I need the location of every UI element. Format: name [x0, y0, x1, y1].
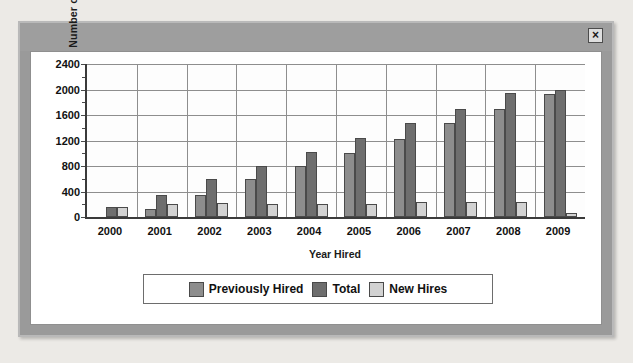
- legend-item[interactable]: Previously Hired: [189, 282, 304, 297]
- bar: [167, 204, 178, 217]
- y-axis-tick: 2400: [56, 58, 80, 70]
- bar: [466, 202, 477, 217]
- bar: [405, 123, 416, 217]
- y-axis-tick: 800: [62, 160, 80, 172]
- y-axis-tick: 1200: [56, 135, 80, 147]
- bar: [444, 123, 455, 217]
- y-axis-tickmark: [81, 217, 85, 218]
- legend-swatch-icon: [312, 282, 327, 297]
- y-axis-minor-tickmark: [82, 204, 85, 205]
- bar: [206, 179, 217, 217]
- bar: [416, 202, 427, 217]
- bar: [544, 94, 555, 217]
- bar-group: [87, 64, 137, 217]
- bar: [306, 152, 317, 217]
- plot-area-wrapper: 0400800120016002000240020002001200220032…: [85, 64, 585, 219]
- bar: [195, 195, 206, 217]
- x-axis-tick: 2001: [147, 225, 171, 237]
- bar: [106, 207, 117, 217]
- bar: [555, 90, 566, 218]
- close-icon[interactable]: ×: [588, 28, 603, 43]
- bar: [256, 166, 267, 217]
- bar-group: [386, 64, 436, 217]
- bar: [145, 209, 156, 217]
- bar: [217, 203, 228, 217]
- chart-window: × Number of employees 040080012001600200…: [18, 21, 614, 337]
- y-axis-minor-tickmark: [82, 153, 85, 154]
- bar-chart: Number of employees 04008001200160020002…: [31, 52, 601, 324]
- bar: [366, 204, 377, 217]
- bar: [156, 195, 167, 217]
- x-axis-tick: 2000: [98, 225, 122, 237]
- bar: [117, 207, 128, 217]
- y-axis-tick: 400: [62, 186, 80, 198]
- x-axis-tick: 2002: [197, 225, 221, 237]
- y-axis-tick: 0: [74, 211, 80, 223]
- bar: [516, 202, 527, 217]
- legend-item[interactable]: New Hires: [369, 282, 447, 297]
- x-axis-tick: 2005: [347, 225, 371, 237]
- x-axis-tick: 2008: [496, 225, 520, 237]
- bar-group: [485, 64, 535, 217]
- bar-group: [236, 64, 286, 217]
- plot-area: [85, 64, 585, 219]
- x-axis-label: Year Hired: [85, 248, 585, 260]
- bar: [344, 153, 355, 217]
- chart-legend: Previously HiredTotalNew Hires: [143, 274, 493, 304]
- legend-swatch-icon: [369, 282, 384, 297]
- bar: [267, 204, 278, 217]
- x-axis-tick: 2003: [247, 225, 271, 237]
- bar: [394, 139, 405, 217]
- y-axis-minor-tickmark: [82, 179, 85, 180]
- y-axis-tickmark: [81, 64, 85, 65]
- bar: [245, 179, 256, 217]
- bar: [355, 138, 366, 217]
- window-titlebar: ×: [20, 23, 612, 51]
- bar-group: [336, 64, 386, 217]
- y-axis-tickmark: [81, 115, 85, 116]
- legend-item[interactable]: Total: [312, 282, 360, 297]
- window-content: Number of employees 04008001200160020002…: [30, 51, 602, 325]
- y-axis-tick: 2000: [56, 84, 80, 96]
- x-axis-tick: 2009: [546, 225, 570, 237]
- legend-label: New Hires: [389, 282, 447, 296]
- bar-group: [436, 64, 486, 217]
- legend-label: Previously Hired: [209, 282, 304, 296]
- y-axis-tick: 1600: [56, 109, 80, 121]
- y-axis-label: Number of employees: [67, 0, 81, 66]
- y-axis-tickmark: [81, 141, 85, 142]
- legend-label: Total: [332, 282, 360, 296]
- legend-swatch-icon: [189, 282, 204, 297]
- x-axis-tick: 2006: [396, 225, 420, 237]
- y-axis-tickmark: [81, 90, 85, 91]
- y-axis-minor-tickmark: [82, 128, 85, 129]
- bar-group: [187, 64, 237, 217]
- bar-group: [535, 64, 585, 217]
- bar: [505, 93, 516, 217]
- x-axis-tick: 2007: [446, 225, 470, 237]
- bar: [295, 166, 306, 217]
- y-axis-minor-tickmark: [82, 77, 85, 78]
- bar-group: [137, 64, 187, 217]
- y-axis-tickmark: [81, 192, 85, 193]
- bar-group: [286, 64, 336, 217]
- bar: [494, 109, 505, 217]
- bar: [455, 109, 466, 217]
- x-axis-tick: 2004: [297, 225, 321, 237]
- bar: [566, 213, 577, 217]
- y-axis-minor-tickmark: [82, 102, 85, 103]
- y-axis-tickmark: [81, 166, 85, 167]
- bar: [317, 204, 328, 217]
